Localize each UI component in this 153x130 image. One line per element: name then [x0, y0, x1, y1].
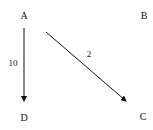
node-c: C	[140, 112, 147, 122]
edge-label-a-c: 2	[87, 50, 92, 59]
edge-label-a-d: 10	[9, 59, 18, 68]
edge-a-to-c	[46, 32, 126, 101]
node-a: A	[20, 11, 27, 21]
node-b: B	[141, 11, 148, 21]
node-d: D	[20, 113, 27, 123]
